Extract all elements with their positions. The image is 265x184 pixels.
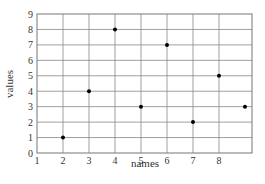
x-tick-label: 3 (86, 155, 91, 166)
y-tick-label: 3 (28, 101, 33, 112)
x-tick-label: 7 (190, 155, 195, 166)
x-tick-label: 8 (216, 155, 221, 166)
y-tick-label: 1 (28, 132, 33, 143)
y-tick-label: 7 (28, 39, 33, 50)
data-point (139, 105, 143, 109)
y-tick-label: 2 (28, 117, 33, 128)
x-tick-label: 6 (164, 155, 169, 166)
y-axis-ticks: 0123456789 (28, 9, 33, 159)
data-point (113, 27, 117, 31)
x-axis-label: names (131, 157, 159, 169)
data-point (61, 136, 65, 140)
x-tick-label: 2 (60, 155, 65, 166)
plot-frame (37, 14, 252, 153)
y-tick-label: 9 (28, 9, 33, 20)
y-tick-label: 5 (28, 70, 33, 81)
y-axis-label: values (3, 70, 15, 98)
scatter-chart: 0123456789 12345678 names values (0, 0, 265, 184)
x-tick-label: 4 (112, 155, 117, 166)
y-tick-label: 4 (28, 86, 33, 97)
data-point (191, 120, 195, 124)
data-point (217, 74, 221, 78)
x-axis-ticks: 12345678 (35, 155, 222, 166)
x-tick-label: 1 (35, 155, 40, 166)
grid-lines (37, 14, 252, 153)
y-tick-label: 8 (28, 24, 33, 35)
y-tick-label: 0 (28, 148, 33, 159)
data-point (87, 89, 91, 93)
data-point (165, 43, 169, 47)
y-tick-label: 6 (28, 55, 33, 66)
data-point (243, 105, 247, 109)
